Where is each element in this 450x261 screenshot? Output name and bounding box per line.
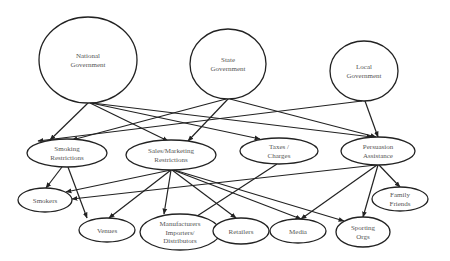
edge-sales-to-retailers: [172, 170, 236, 218]
edge-smoking-to-venues: [68, 167, 87, 218]
node-venues: Venues: [79, 218, 135, 242]
node-retailers: Retailers: [213, 218, 269, 244]
node-sales: Sales/MarketingRestrictions: [126, 140, 216, 170]
node-state-label: State: [221, 56, 235, 64]
edge-state-to-persuasion: [230, 99, 376, 137]
node-media: Media: [270, 219, 326, 243]
node-manufacturers-label: Importers/: [165, 229, 194, 237]
node-sales-label: Sales/Marketing: [148, 147, 194, 155]
node-sporting-label: Orgs: [356, 233, 370, 241]
node-national: NationalGovernment: [39, 17, 137, 103]
node-local: LocalGovernment: [330, 41, 398, 101]
node-sporting: SportingOrgs: [336, 217, 390, 247]
node-family-label: Friends: [390, 200, 411, 208]
edge-local-to-persuasion: [365, 101, 378, 137]
node-smokers: Smokers: [18, 188, 72, 212]
node-manufacturers-label: Manufacturers: [160, 220, 201, 228]
node-national-label: National: [76, 52, 100, 60]
node-smoking-label: Restrictions: [50, 154, 84, 162]
edge-national-to-persuasion: [92, 103, 372, 137]
edge-taxes-to-manufacturers: [191, 164, 277, 220]
node-smoking: SmokingRestrictions: [27, 139, 107, 167]
node-smoking-label: Smoking: [54, 145, 80, 153]
node-national-label: Government: [71, 61, 106, 69]
node-manufacturers: ManufacturersImporters/Distributors: [140, 214, 220, 250]
edge-sales-to-smokers: [66, 170, 171, 192]
node-persuasion-label: Assistance: [363, 152, 393, 160]
edge-smoking-to-smokers: [46, 167, 62, 188]
node-local-label: Government: [347, 72, 382, 80]
node-taxes-label: Charges: [268, 152, 291, 160]
edge-national-to-taxes: [91, 103, 260, 139]
node-manufacturers-label: Distributors: [163, 237, 197, 245]
node-family: FamilyFriends: [372, 187, 428, 211]
edge-persuasion-to-family: [379, 165, 400, 187]
node-taxes-label: Taxes /: [269, 143, 289, 151]
node-smokers-label: Smokers: [33, 197, 58, 205]
node-venues-label: Venues: [97, 227, 117, 235]
node-family-label: Family: [390, 191, 410, 199]
edge-sales-to-manufacturers: [164, 170, 171, 214]
node-retailers-label: Retailers: [229, 228, 254, 236]
node-state: StateGovernment: [190, 29, 266, 99]
edge-sales-to-media: [173, 170, 301, 219]
edge-persuasion-to-media: [301, 165, 377, 219]
node-persuasion: PersuasionAssistance: [341, 137, 415, 165]
node-persuasion-label: Persuasion: [363, 143, 394, 151]
node-media-label: Media: [289, 228, 308, 236]
node-taxes: Taxes /Charges: [240, 138, 318, 164]
edge-persuasion-to-smokers: [72, 165, 376, 199]
diagram-canvas: NationalGovernmentStateGovernmentLocalGo…: [0, 0, 450, 261]
edge-national-to-smoking: [50, 103, 88, 140]
nodes-layer: NationalGovernmentStateGovernmentLocalGo…: [18, 17, 428, 250]
edge-national-to-sales: [90, 103, 168, 141]
node-sales-label: Restrictions: [154, 156, 188, 164]
node-sporting-label: Sporting: [351, 224, 376, 232]
node-state-label: Government: [211, 65, 246, 73]
influence-diagram: NationalGovernmentStateGovernmentLocalGo…: [0, 0, 450, 261]
node-local-label: Local: [356, 63, 372, 71]
